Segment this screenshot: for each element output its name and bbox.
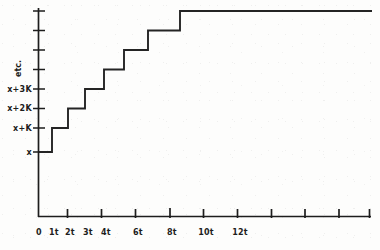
step-curve xyxy=(39,11,372,152)
y-axis-label-x-plus-3k: x+3K xyxy=(0,85,32,94)
y-axis-label-etc: etc. xyxy=(14,60,23,77)
x-axis-label-1t: 1t xyxy=(49,228,59,237)
step-function-chart: x x+K x+2K x+3K etc. 0 1t 2t 3t 4t 6t 8t… xyxy=(0,0,380,250)
x-axis-label-6t: 6t xyxy=(133,228,143,237)
x-axis-label-12t: 12t xyxy=(232,228,248,237)
y-axis-label-x-plus-k: x+K xyxy=(0,124,32,133)
chart-canvas xyxy=(0,0,380,250)
y-axis-label-x: x xyxy=(4,148,32,157)
x-axis-label-8t: 8t xyxy=(167,228,177,237)
x-axis-label-0: 0 xyxy=(36,228,42,237)
x-axis-label-2t: 2t xyxy=(65,228,75,237)
y-axis-label-x-plus-2k: x+2K xyxy=(0,104,32,113)
x-axis-label-10t: 10t xyxy=(198,228,214,237)
x-axis-label-3t: 3t xyxy=(83,228,93,237)
x-axis-label-4t: 4t xyxy=(101,228,111,237)
